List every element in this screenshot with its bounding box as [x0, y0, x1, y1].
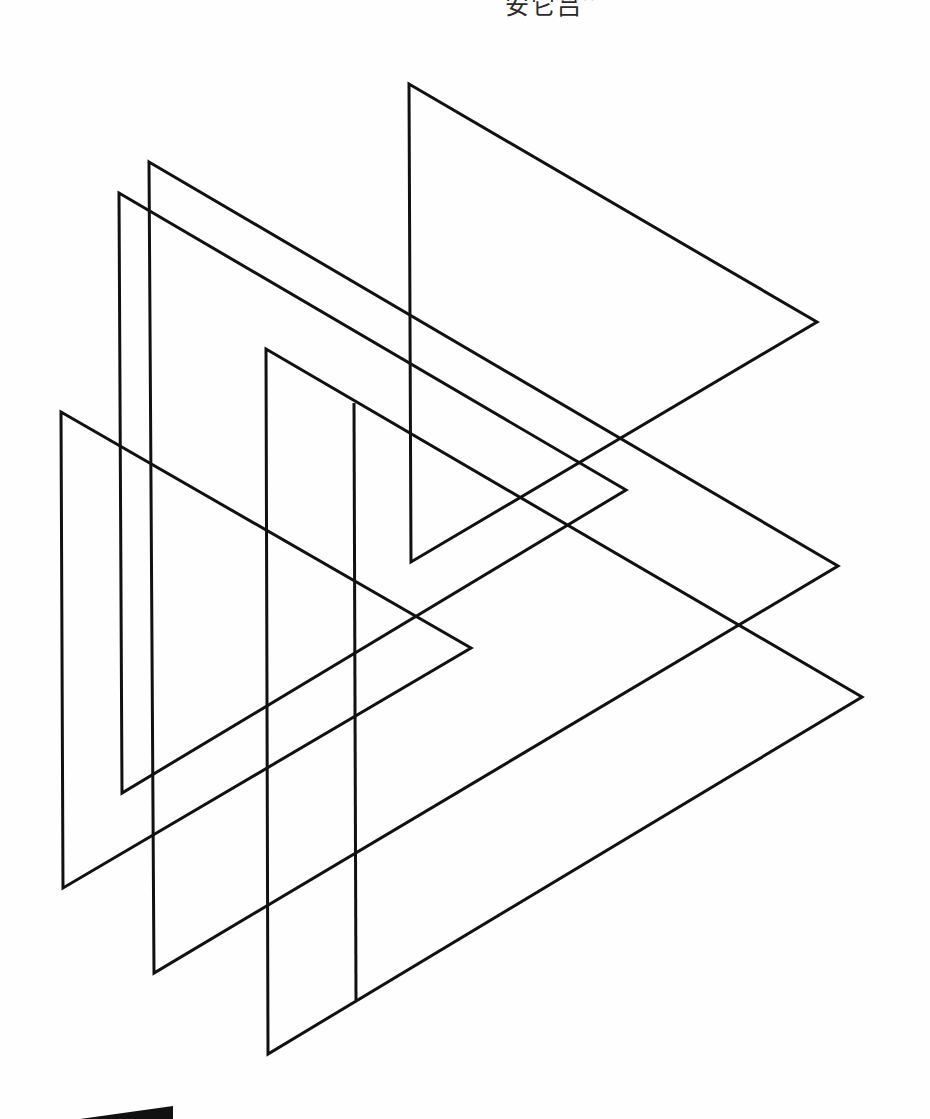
triangle-drawing: [0, 0, 930, 1119]
dark-wedge-shape: [80, 1106, 173, 1119]
triangle-1-shape: [409, 84, 817, 562]
page: 安它吕 · · · · ·: [0, 0, 930, 1119]
triangle-2-shape: [149, 162, 838, 973]
triangle-3-shape: [119, 193, 626, 793]
vertical-segment: [354, 403, 356, 1000]
